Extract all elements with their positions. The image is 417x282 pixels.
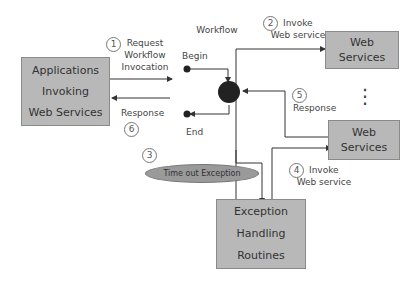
web-services-box-1: Web Services <box>325 31 399 69</box>
begin-label: Begin <box>182 50 208 62</box>
step-1-line-1: Request <box>120 37 170 49</box>
step-2-line-1: Invoke <box>270 17 326 29</box>
apps-line-1: Applications <box>32 60 99 81</box>
applications-box: Applications Invoking Web Services <box>21 57 110 126</box>
step-1-line-2: Workflow <box>120 49 170 61</box>
end-label: End <box>186 126 203 138</box>
step-2-line-2: Web service <box>270 29 326 41</box>
step-2-label: Invoke Web service <box>270 17 326 41</box>
ws1-line-2: Services <box>339 50 385 65</box>
step-6-badge: 6 <box>124 122 139 137</box>
step-6-label: Response <box>121 107 164 119</box>
ws1-line-1: Web <box>350 35 374 50</box>
apps-line-3: Web Services <box>29 102 103 123</box>
timeout-label: Time out Exception <box>163 169 240 178</box>
step-4-line-2: Web service <box>296 176 352 188</box>
ws2-line-1: Web <box>352 125 376 140</box>
web-services-box-2: Web Services <box>328 120 400 160</box>
step-5-label: Response <box>293 102 336 114</box>
apps-line-2: Invoking <box>42 81 89 102</box>
step-1-line-3: Invocation <box>120 61 170 73</box>
step-1-label: Request Workflow Invocation <box>120 37 170 73</box>
ellipsis-dots: ⋮ <box>355 82 375 110</box>
step-3-badge: 3 <box>142 148 157 163</box>
timeout-exception-ellipse: Time out Exception <box>145 164 259 183</box>
exc-line-1: Exception <box>234 201 288 223</box>
ws2-line-2: Services <box>341 140 387 155</box>
step-4-label: Invoke Web service <box>296 164 352 188</box>
exc-line-3: Routines <box>237 245 285 267</box>
step-4-line-1: Invoke <box>296 164 352 176</box>
step-1-badge: 1 <box>106 37 121 52</box>
step-5-badge: 5 <box>292 88 307 103</box>
exception-handling-box: Exception Handling Routines <box>216 199 306 269</box>
workflow-title: Workflow <box>192 24 242 36</box>
exc-line-2: Handling <box>236 223 285 245</box>
